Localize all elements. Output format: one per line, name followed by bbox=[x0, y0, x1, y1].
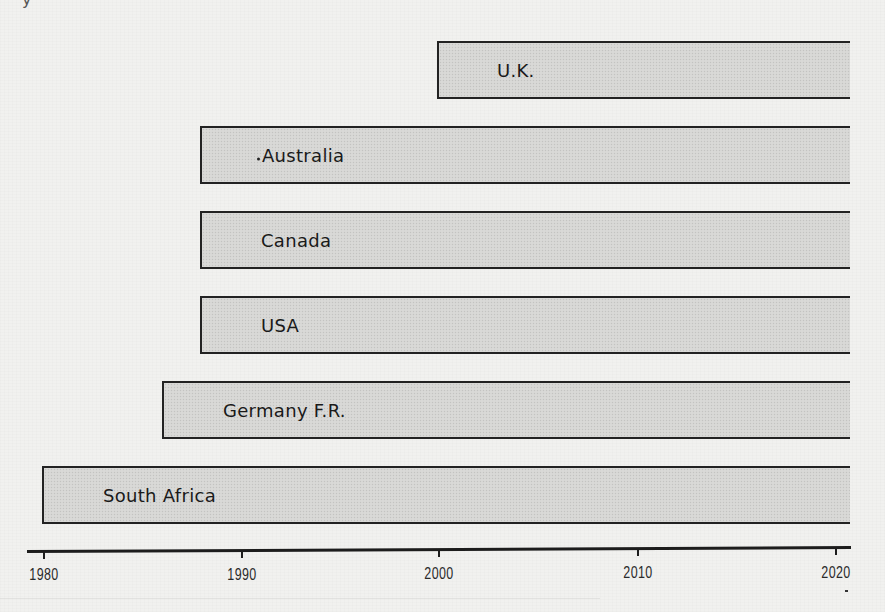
bar-south-africa: South Africa bbox=[42, 466, 850, 524]
page-rule bbox=[0, 598, 600, 599]
bar-label-text: USA bbox=[261, 315, 299, 336]
x-tick-label-2000: 2000 bbox=[424, 565, 453, 583]
x-tick-label-1980: 1980 bbox=[29, 566, 58, 584]
x-axis-tick-2010 bbox=[637, 549, 639, 556]
x-axis-tick-1980 bbox=[43, 552, 45, 559]
bar-label-usa: USA bbox=[261, 315, 299, 336]
bar-label-uk: U.K. bbox=[497, 60, 535, 81]
bar-label-text: U.K. bbox=[497, 60, 535, 81]
x-axis-tick-1990 bbox=[241, 551, 243, 558]
bar-label-south-africa: South Africa bbox=[103, 485, 216, 506]
bar-label-text: Canada bbox=[261, 230, 331, 251]
bar-label-text: Germany F.R. bbox=[223, 400, 346, 421]
scan-dot-mark bbox=[257, 157, 260, 160]
bar-uk: U.K. bbox=[437, 41, 850, 99]
bar-australia: Australia bbox=[200, 126, 850, 184]
bar-germany: Germany F.R. bbox=[162, 381, 850, 439]
bar-label-text: Australia bbox=[262, 145, 344, 166]
timeline-chart: U.K. Australia Canada USA Germany F.R. S… bbox=[0, 0, 885, 612]
x-tick-label-1990: 1990 bbox=[227, 566, 256, 584]
x-axis-tick-2020 bbox=[835, 548, 837, 555]
bar-label-australia: Australia bbox=[257, 145, 344, 166]
bar-usa: USA bbox=[200, 296, 850, 354]
bar-label-germany: Germany F.R. bbox=[223, 400, 346, 421]
bar-label-text: South Africa bbox=[103, 485, 216, 506]
bar-canada: Canada bbox=[200, 211, 850, 269]
x-axis-tick-2000 bbox=[438, 550, 440, 557]
x-tick-label-2010: 2010 bbox=[623, 564, 652, 582]
scan-mark bbox=[845, 590, 848, 592]
bar-label-canada: Canada bbox=[261, 230, 331, 251]
x-tick-label-2020: 2020 bbox=[821, 564, 850, 582]
